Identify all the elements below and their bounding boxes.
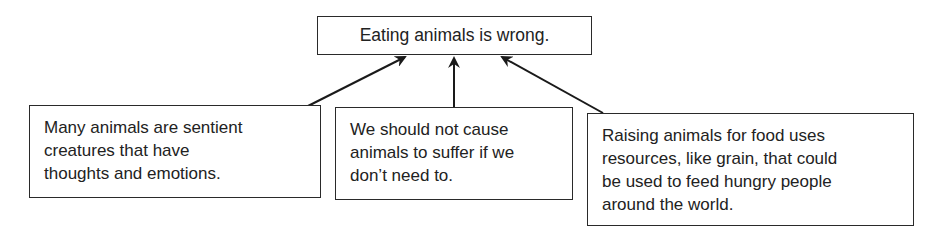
reason-text-2: We should not cause animals to suffer if… <box>350 118 572 187</box>
arrow-reason-3-to-claim <box>502 57 603 113</box>
reason-box-2: We should not cause animals to suffer if… <box>335 107 573 200</box>
reason-box-1: Many animals are sentient creatures that… <box>29 105 321 198</box>
claim-text: Eating animals is wrong. <box>360 24 550 47</box>
reason-text-1: Many animals are sentient creatures that… <box>44 116 320 185</box>
reason-box-3: Raising animals for food uses resources,… <box>587 113 914 226</box>
reason-text-3: Raising animals for food uses resources,… <box>602 124 913 216</box>
claim-box: Eating animals is wrong. <box>317 16 592 55</box>
arrow-reason-1-to-claim <box>308 57 405 106</box>
